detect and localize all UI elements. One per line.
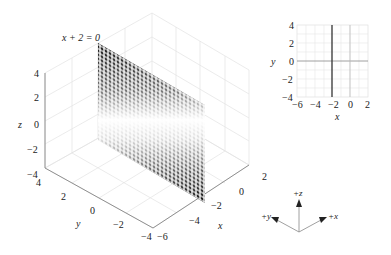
y-tick: −2 [113,220,124,230]
triad-y-label: +y [261,211,271,221]
equation-label: x + 2 = 0 [62,33,100,43]
x-axis-label: x [218,221,222,231]
x-tick: −6 [157,232,168,242]
y-tick: 0 [90,206,95,216]
x-tick: −4 [189,216,200,226]
inset-plot [297,25,368,97]
inset-y-tick: 2 [289,39,294,49]
plane-mesh [98,43,205,203]
inset-x-tick: 2 [365,100,370,110]
y-tick: 4 [36,178,41,188]
y-tick: 2 [61,192,66,202]
axis-triad [271,199,327,232]
x-tick: 0 [239,187,244,197]
triad-z-label: +z [293,188,303,198]
inset-x-tick: 0 [348,100,353,110]
inset-x-label: x [335,112,339,122]
inset-y-tick: −2 [282,75,293,85]
inset-y-tick: 4 [289,21,294,31]
inset-y-tick: 0 [289,57,294,67]
inset-x-tick: −4 [310,100,321,110]
inset-y-label: y [271,57,275,67]
z-tick: −2 [27,145,38,155]
triad-x-label: +x [328,211,338,221]
z-tick: 2 [34,93,39,103]
inset-x-tick: −2 [328,100,339,110]
inset-x-tick: −6 [292,100,303,110]
x-tick: 2 [262,172,267,182]
y-tick: −4 [141,232,152,242]
y-axis-label: y [76,219,80,229]
z-tick: 0 [34,120,39,130]
x-tick: −2 [211,201,222,211]
z-tick: 4 [34,69,39,79]
z-axis-label: z [18,120,22,130]
